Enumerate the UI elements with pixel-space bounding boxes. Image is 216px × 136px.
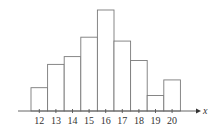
x-tick-label-18: 18 [134, 115, 144, 126]
histogram-bar-12 [31, 88, 48, 111]
histogram-bar-20 [164, 80, 181, 111]
x-tick-label-14: 14 [68, 115, 78, 126]
x-tick-label-16: 16 [101, 115, 111, 126]
histogram-bar-19 [147, 95, 164, 111]
histogram-bar-14 [64, 57, 81, 111]
histogram-bars [31, 10, 180, 111]
x-tick-label-19: 19 [151, 115, 161, 126]
x-axis-ticks: 121314151617181920 [34, 109, 177, 126]
histogram-bar-17 [114, 41, 131, 111]
x-axis-arrow-icon [196, 109, 201, 114]
histogram-bar-13 [48, 64, 65, 111]
x-tick-label-20: 20 [167, 115, 177, 126]
x-axis-label: x [202, 105, 208, 116]
x-tick-label-13: 13 [51, 115, 61, 126]
histogram-bar-15 [81, 37, 98, 111]
x-tick-label-15: 15 [84, 115, 94, 126]
x-tick-label-17: 17 [117, 115, 127, 126]
histogram-chart: x 121314151617181920 [0, 0, 216, 136]
histogram-bar-16 [97, 10, 114, 111]
histogram-bar-18 [131, 61, 148, 112]
x-tick-label-12: 12 [34, 115, 44, 126]
